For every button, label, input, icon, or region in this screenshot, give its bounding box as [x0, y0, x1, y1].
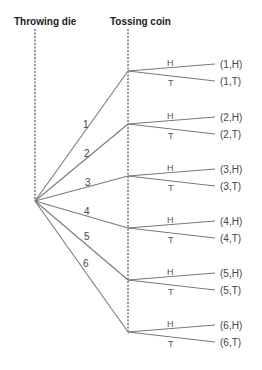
heads-label: H — [167, 319, 174, 329]
tails-label: T — [168, 235, 174, 245]
tails-label: T — [168, 131, 174, 141]
die-branch-label: 3 — [85, 177, 91, 188]
outcome-heads: (3,H) — [220, 164, 242, 175]
tails-label: T — [168, 287, 174, 297]
outcome-heads: (5,H) — [220, 268, 242, 279]
outcome-heads: (1,H) — [220, 59, 242, 70]
branches — [35, 64, 215, 342]
header-tossing-coin: Tossing coin — [110, 16, 171, 27]
outcome-tails: (1,T) — [220, 76, 241, 87]
die-branch-label: 4 — [84, 206, 90, 217]
die-branch-label: 1 — [83, 119, 89, 130]
heads-label: H — [167, 58, 174, 68]
tails-label: T — [168, 339, 174, 349]
die-branch-label: 2 — [84, 148, 90, 159]
outcome-tails: (3,T) — [220, 181, 241, 192]
heads-label: H — [167, 267, 174, 277]
die-branch-label: 6 — [83, 258, 89, 269]
tails-label: T — [168, 183, 174, 193]
die-branch-label: 5 — [84, 231, 90, 242]
outcome-heads: (4,H) — [220, 216, 242, 227]
die-branch-5 — [35, 201, 128, 280]
heads-label: H — [167, 215, 174, 225]
outcome-tails: (4,T) — [220, 233, 241, 244]
labels: 1HT(1,H)(1,T)2HT(2,H)(2,T)3HT(3,H)(3,T)4… — [83, 58, 242, 349]
outcome-heads: (2,H) — [220, 112, 242, 123]
outcome-tails: (5,T) — [220, 285, 241, 296]
tree-diagram: Throwing die Tossing coin 1HT(1,H)(1,T)2… — [0, 0, 262, 370]
outcome-heads: (6,H) — [220, 320, 242, 331]
die-branch-4 — [35, 201, 128, 228]
tails-label: T — [168, 78, 174, 88]
outcome-tails: (6,T) — [220, 337, 241, 348]
outcome-tails: (2,T) — [220, 129, 241, 140]
heads-label: H — [167, 111, 174, 121]
die-branch-3 — [35, 176, 128, 201]
heads-label: H — [167, 163, 174, 173]
header-throwing-die: Throwing die — [14, 16, 77, 27]
die-branch-6 — [35, 201, 128, 332]
